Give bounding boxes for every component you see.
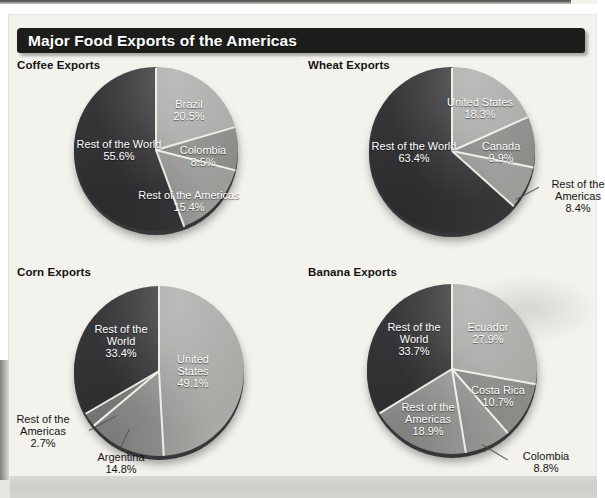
slice-value: 8.5% bbox=[180, 157, 226, 169]
slice-label-rest-of-world: Rest of the World 33.7% bbox=[387, 322, 440, 358]
chart-panel-wheat: Wheat Exports United States 18.3% Canada bbox=[300, 57, 589, 266]
slice-value: 15.4% bbox=[138, 202, 240, 214]
slice-label-brazil: Brazil 20.5% bbox=[173, 99, 204, 123]
slice-name: United bbox=[177, 353, 209, 365]
slice-value: 63.4% bbox=[372, 153, 457, 165]
slice-name: Costa Rica bbox=[471, 384, 525, 396]
slice-label-canada: Canada 9.9% bbox=[482, 141, 521, 165]
slice-name: Rest of the bbox=[401, 401, 454, 413]
slice-label-united-states: United States 49.1% bbox=[177, 354, 209, 390]
pie-chart-wheat: United States 18.3% Canada 9.9% Rest of … bbox=[366, 61, 586, 251]
slice-name: Rest of the bbox=[387, 321, 440, 333]
slice-value: 49.1% bbox=[177, 378, 209, 390]
chart-panel-banana: Banana Exports Ecuador 27.9% Costa Rica bbox=[300, 266, 589, 475]
slice-value: 10.7% bbox=[471, 397, 525, 409]
slice-name: United States bbox=[447, 96, 513, 108]
slice-name-2: Americas bbox=[401, 414, 454, 426]
slice-name: Argentina bbox=[97, 451, 144, 463]
pie-chart-coffee: Brazil 20.5% Colombia 8.5% Rest of the A… bbox=[71, 61, 243, 246]
slice-label-argentina: Argentina 14.8% bbox=[97, 452, 144, 476]
slice-name-2: Americas bbox=[16, 426, 69, 438]
slice-label-ecuador: Ecuador 27.9% bbox=[468, 322, 509, 346]
scan-top-edge-artifact bbox=[0, 0, 597, 4]
slice-name: Canada bbox=[482, 140, 521, 152]
slice-label-rest-of-americas: Rest of the Americas 18.9% bbox=[401, 402, 454, 438]
slice-name-2: World bbox=[387, 334, 440, 346]
slice-separator bbox=[451, 284, 453, 369]
slice-separator bbox=[158, 286, 160, 371]
slice-name: Colombia bbox=[180, 144, 226, 156]
slice-value: 18.3% bbox=[447, 109, 513, 121]
slice-value: 33.4% bbox=[94, 348, 147, 360]
slice-name: Rest of the World bbox=[372, 140, 457, 152]
slice-value: 20.5% bbox=[173, 111, 204, 123]
slice-label-rest-of-americas: Rest of the Americas 15.4% bbox=[138, 190, 240, 214]
pie-chart-corn: United States 49.1% Rest of the World 33… bbox=[71, 280, 251, 475]
scan-left-edge-artifact bbox=[0, 360, 9, 480]
slice-name-2: States bbox=[177, 366, 209, 378]
slice-name-2: Americas bbox=[551, 191, 604, 203]
slice-label-rest-of-americas: Rest of the Americas 8.4% bbox=[551, 179, 604, 215]
slice-label-rest-of-world: Rest of the World 33.4% bbox=[94, 324, 147, 360]
slice-name: Brazil bbox=[175, 98, 203, 110]
slice-value: 18.9% bbox=[401, 426, 454, 438]
slice-name: Rest of the Americas bbox=[138, 189, 240, 201]
slice-value: 27.9% bbox=[468, 334, 509, 346]
chart-panel-corn: Corn Exports United States 49.1% Rest of bbox=[9, 266, 298, 475]
slice-name-2: World bbox=[94, 336, 147, 348]
figure-title-bar: Major Food Exports of the Americas bbox=[17, 28, 585, 53]
slice-label-united-states: United States 18.3% bbox=[447, 97, 513, 121]
slice-name: Colombia bbox=[523, 450, 569, 462]
slice-value: 2.7% bbox=[16, 438, 69, 450]
chart-title-banana: Banana Exports bbox=[308, 266, 397, 278]
pie-chart-banana: Ecuador 27.9% Costa Rica 10.7% Rest of t… bbox=[364, 278, 574, 474]
slice-label-rest-of-world: Rest of the World 55.6% bbox=[77, 139, 162, 163]
slice-name: Ecuador bbox=[468, 321, 509, 333]
slice-label-rest-of-americas: Rest of the Americas 2.7% bbox=[16, 414, 69, 450]
slice-value: 8.8% bbox=[523, 463, 569, 475]
slice-name: Rest of the bbox=[551, 178, 604, 190]
slice-value: 55.6% bbox=[77, 151, 162, 163]
slice-name: Rest of the World bbox=[77, 138, 162, 150]
slice-label-colombia: Colombia 8.5% bbox=[180, 145, 226, 169]
figure-title: Major Food Exports of the Americas bbox=[17, 32, 297, 50]
slice-value: 33.7% bbox=[387, 346, 440, 358]
charts-grid: Coffee Exports Brazil 20.5% Colom bbox=[9, 57, 588, 475]
slice-value: 8.4% bbox=[551, 203, 604, 215]
slice-name: Rest of the bbox=[94, 323, 147, 335]
slice-label-costa-rica: Costa Rica 10.7% bbox=[471, 385, 525, 409]
scan-bottom-band bbox=[8, 476, 597, 498]
slice-value: 14.8% bbox=[97, 464, 144, 476]
slice-name: Rest of the bbox=[16, 413, 69, 425]
slice-value: 9.9% bbox=[482, 153, 521, 165]
slice-label-colombia: Colombia 8.8% bbox=[523, 451, 569, 475]
figure-panel: Major Food Exports of the Americas Coffe… bbox=[8, 14, 597, 484]
chart-panel-coffee: Coffee Exports Brazil 20.5% Colom bbox=[9, 57, 298, 266]
chart-title-corn: Corn Exports bbox=[17, 266, 91, 278]
slice-label-rest-of-world: Rest of the World 63.4% bbox=[372, 141, 457, 165]
